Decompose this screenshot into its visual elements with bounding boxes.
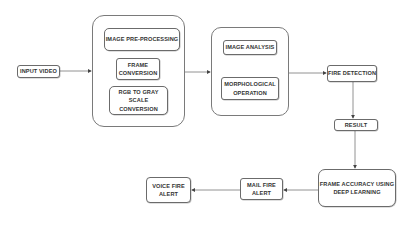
image-preprocessing-node: IMAGE PRE-PROCESSING <box>104 28 180 51</box>
frame-accuracy-node: FRAME ACCURACY USING DEEP LEARNING <box>318 169 396 207</box>
rgb-to-gray-label-line2: CONVERSION <box>119 105 158 113</box>
result-label: RESULT <box>345 121 368 129</box>
image-analysis-label: IMAGE ANALYSIS <box>226 43 275 51</box>
voice-fire-alert-label-line2: ALERT <box>159 190 178 198</box>
rgb-to-gray-node: RGB TO GRAY SCALE CONVERSION <box>109 86 168 115</box>
fire-detection-label: FIRE DETECTION <box>328 69 376 77</box>
frame-accuracy-label-line2: DEEP LEARNING <box>333 188 380 196</box>
mail-fire-alert-node: MAIL FIRE ALERT <box>240 178 283 200</box>
image-analysis-node: IMAGE ANALYSIS <box>223 40 277 55</box>
image-preprocessing-label: IMAGE PRE-PROCESSING <box>106 35 179 43</box>
rgb-to-gray-label-line1: RGB TO GRAY SCALE <box>110 88 167 105</box>
morphological-operation-node: MORPHOLOGICAL OPERATION <box>221 77 279 100</box>
frame-conversion-label-line2: CONVERSION <box>119 69 158 77</box>
voice-fire-alert-node: VOICE FIRE ALERT <box>146 177 191 203</box>
mail-fire-alert-label-line1: MAIL FIRE <box>247 181 276 189</box>
voice-fire-alert-label-line1: VOICE FIRE <box>152 182 185 190</box>
morphological-label-line1: MORPHOLOGICAL <box>224 80 276 88</box>
frame-accuracy-label-line1: FRAME ACCURACY USING <box>320 180 394 188</box>
mail-fire-alert-label-line2: ALERT <box>252 189 271 197</box>
morphological-label-line2: OPERATION <box>233 89 267 97</box>
input-video-node: INPUT VIDEO <box>17 65 60 78</box>
fire-detection-node: FIRE DETECTION <box>327 65 377 82</box>
input-video-label: INPUT VIDEO <box>20 67 57 75</box>
result-node: RESULT <box>334 119 378 131</box>
frame-conversion-node: FRAME CONVERSION <box>116 58 160 80</box>
frame-conversion-label-line1: FRAME <box>128 61 148 69</box>
